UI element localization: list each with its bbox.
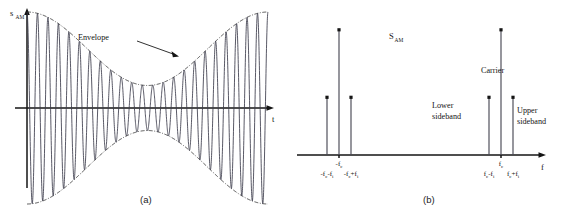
panel-a-canvas: s AM t Envelope bbox=[0, 0, 290, 214]
panel-b-f-axis-label: f bbox=[541, 162, 544, 172]
panel-b-y-axis-label: S bbox=[389, 31, 394, 41]
panel-a-y-axis-label: s bbox=[10, 8, 13, 18]
spectrum-tick-label: fc+fi bbox=[507, 170, 520, 179]
spectral-impulse-cap bbox=[349, 96, 352, 99]
panel-b-frequency-domain: -fc-fi-fc-fc+fifc-fifcfc+fi S AM f Lower… bbox=[280, 0, 571, 214]
upper-sideband-label-line2: sideband bbox=[517, 117, 546, 126]
envelope-pointer-line bbox=[137, 41, 175, 55]
upper-sideband-label-line1: Upper bbox=[517, 106, 538, 115]
spectrum-tick-label: fc-fi bbox=[484, 170, 495, 179]
spectral-impulse-cap bbox=[337, 28, 340, 31]
spectral-impulse-cap bbox=[487, 96, 490, 99]
spectral-impulse-cap bbox=[511, 96, 514, 99]
envelope-annotation-label: Envelope bbox=[78, 33, 109, 42]
spectral-impulse-cap bbox=[499, 28, 502, 31]
panel-a-x-axis-arrowhead bbox=[267, 105, 275, 111]
panel-b-f-axis-arrowhead bbox=[539, 152, 547, 158]
am-signal-figure: s AM t Envelope -fc-fi-fc-fc+fifc-fifcfc… bbox=[0, 0, 571, 214]
spectral-impulse-group bbox=[325, 28, 514, 155]
upper-envelope-curve bbox=[27, 12, 268, 85]
panel-b-y-axis-label-subscript: AM bbox=[395, 37, 404, 43]
spectrum-tick-label: fc bbox=[499, 160, 504, 169]
envelope-pointer-arrowhead bbox=[172, 51, 180, 57]
spectrum-tick-label: -fc bbox=[336, 160, 344, 169]
lower-sideband-label-line1: Lower bbox=[432, 101, 454, 110]
spectrum-tick-label: -fc-fi bbox=[321, 170, 335, 179]
carrier-label: Carrier bbox=[481, 66, 504, 75]
panel-a-caption: (a) bbox=[140, 194, 152, 205]
panel-b-canvas: -fc-fi-fc-fc+fifc-fifcfc+fi S AM f Lower… bbox=[280, 0, 571, 214]
lower-envelope-curve bbox=[27, 131, 268, 204]
panel-b-caption: (b) bbox=[423, 194, 435, 205]
panel-a-y-axis-label-subscript: AM bbox=[16, 14, 25, 20]
spectral-impulse-cap bbox=[325, 96, 328, 99]
panel-a-time-domain: s AM t Envelope bbox=[0, 0, 290, 214]
lower-sideband-label-line2: sideband bbox=[432, 112, 461, 121]
spectrum-tick-label-group: -fc-fi-fc-fc+fifc-fifcfc+fi bbox=[321, 155, 520, 179]
panel-a-x-axis-label: t bbox=[272, 114, 275, 124]
spectrum-tick-label: -fc+fi bbox=[344, 170, 359, 179]
